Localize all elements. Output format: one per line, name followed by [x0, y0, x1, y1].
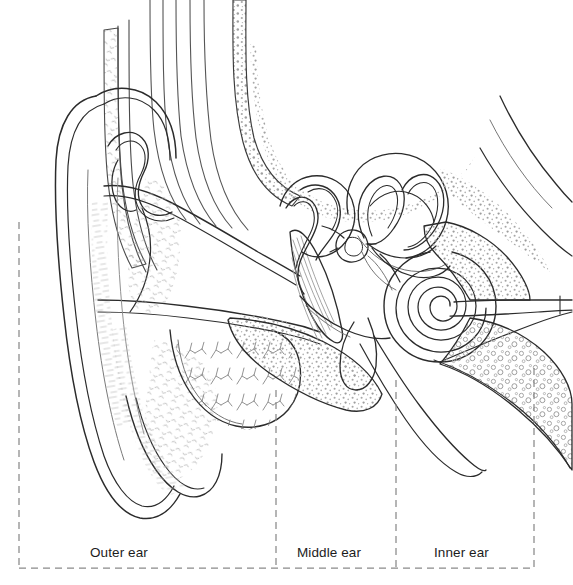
region-label-middle-ear: Middle ear [297, 545, 361, 560]
tympanic-membrane [290, 230, 343, 343]
ear-anatomy-figure: Outer ear Middle ear Inner ear [0, 0, 573, 585]
region-label-inner-ear: Inner ear [434, 545, 489, 560]
pinna-auricle [55, 88, 222, 518]
region-label-outer-ear: Outer ear [90, 545, 148, 560]
ear-anatomy-illustration [0, 0, 573, 585]
